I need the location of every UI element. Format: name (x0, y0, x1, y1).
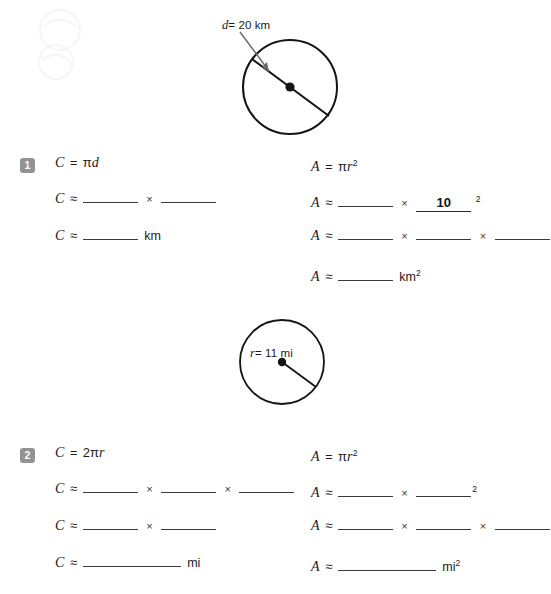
approx-sign: ≈ (68, 555, 78, 570)
formula-circumference: C = πd (55, 153, 305, 189)
times-sign: × (397, 230, 411, 242)
problem-2-circumference-column: C = 2πr C ≈ × × C ≈ × C ≈ mi (55, 443, 305, 590)
row-lhs: C (55, 481, 65, 496)
answer-blank[interactable] (83, 553, 181, 567)
formula-lhs: C (55, 445, 65, 460)
answer-blank[interactable] (338, 267, 393, 281)
problem-2-area-column: A = πr2 A ≈ × 2 A ≈ × × A ≈ mi2 (311, 443, 543, 590)
work-row: C ≈ mi (55, 553, 305, 590)
row-lhs: A (311, 195, 320, 210)
answer-blank[interactable] (495, 516, 550, 530)
approx-sign: ≈ (68, 191, 78, 206)
times-sign: × (142, 193, 156, 205)
answer-blank[interactable] (161, 516, 216, 530)
approx-sign: ≈ (323, 195, 333, 210)
times-sign: × (221, 483, 235, 495)
answer-blank[interactable] (495, 226, 550, 240)
answer-blank[interactable] (338, 226, 393, 240)
equals-sign: = (68, 446, 79, 460)
answer-blank[interactable] (416, 226, 471, 240)
coefficient: 2 (83, 445, 90, 460)
unit-label: km (142, 229, 161, 243)
exponent: 2 (353, 158, 358, 168)
times-sign: × (476, 230, 490, 242)
equals-sign: = (68, 156, 79, 170)
approx-sign: ≈ (68, 228, 78, 243)
times-sign: × (142, 520, 156, 532)
times-sign: × (397, 197, 411, 209)
answer-blank-filled[interactable]: 10 (416, 196, 471, 212)
row-lhs: A (311, 228, 320, 243)
row-lhs: C (55, 555, 65, 570)
approx-sign: ≈ (323, 559, 333, 574)
formula-lhs: A (311, 159, 320, 174)
row-lhs: C (55, 191, 65, 206)
approx-sign: ≈ (68, 518, 78, 533)
figure-circle-radius: r= 11 mi (222, 308, 352, 420)
work-row: A ≈ × × (311, 226, 543, 263)
problem-1-circumference-column: C = πd C ≈ × C ≈ km (55, 153, 305, 263)
exponent: 2 (416, 268, 421, 278)
problem-number-badge: 1 (20, 158, 35, 173)
unit-label: mi (440, 560, 455, 574)
work-row: A ≈ mi2 (311, 553, 543, 590)
approx-sign: ≈ (68, 481, 78, 496)
figure-label-diameter: d= 20 km (222, 18, 270, 33)
answer-blank[interactable] (161, 189, 216, 203)
figure-label-value: = 20 km (228, 19, 270, 31)
work-row: C ≈ × × (55, 479, 305, 516)
answer-blank[interactable] (338, 557, 436, 571)
work-row: A ≈ × 2 (311, 479, 543, 516)
answer-blank[interactable] (161, 479, 216, 493)
row-lhs: C (55, 518, 65, 533)
pi-symbol: π (338, 159, 347, 174)
answer-blank[interactable] (416, 483, 471, 497)
work-row: A ≈ km2 (311, 263, 543, 300)
times-sign: × (397, 520, 411, 532)
equals-sign: = (323, 160, 334, 174)
figure-label-value: = 11 mi (255, 347, 293, 359)
formula-rhs-variable: d (92, 155, 99, 170)
problem-1-area-column: A = πr2 A ≈ × 10 2 A ≈ × × A ≈ km2 (311, 153, 543, 300)
work-row: C ≈ × (55, 189, 305, 226)
problem-number-badge: 2 (20, 448, 35, 463)
formula-lhs: C (55, 155, 65, 170)
watermark (14, 4, 124, 84)
answer-blank[interactable] (83, 189, 138, 203)
figure-circle-diameter: d= 20 km (196, 8, 366, 148)
answer-blank[interactable] (83, 479, 138, 493)
times-sign: × (397, 487, 411, 499)
approx-sign: ≈ (323, 269, 333, 284)
answer-blank[interactable] (83, 516, 138, 530)
times-sign: × (142, 483, 156, 495)
answer-blank[interactable] (338, 483, 393, 497)
answer-blank[interactable] (416, 516, 471, 530)
work-row: C ≈ × (55, 516, 305, 553)
exponent: 2 (456, 558, 461, 568)
row-lhs: A (311, 518, 320, 533)
row-lhs: A (311, 559, 320, 574)
pi-symbol: π (83, 155, 92, 170)
row-lhs: A (311, 269, 320, 284)
formula-lhs: A (311, 449, 320, 464)
formula-area: A = πr2 (311, 443, 543, 479)
answer-blank[interactable] (83, 226, 138, 240)
exponent: 2 (353, 448, 358, 458)
answer-blank[interactable] (338, 516, 393, 530)
times-sign: × (476, 520, 490, 532)
pi-symbol: π (90, 445, 99, 460)
answer-blank[interactable] (338, 193, 393, 207)
answer-blank[interactable] (239, 479, 294, 493)
approx-sign: ≈ (323, 485, 333, 500)
work-row: A ≈ × 10 2 (311, 189, 543, 226)
exponent: 2 (472, 484, 477, 494)
equals-sign: = (323, 450, 334, 464)
figure-label-radius: r= 11 mi (250, 346, 293, 361)
unit-label: mi (185, 556, 200, 570)
approx-sign: ≈ (323, 518, 333, 533)
approx-sign: ≈ (323, 228, 333, 243)
work-row: A ≈ × × (311, 516, 543, 553)
pi-symbol: π (338, 449, 347, 464)
exponent: 2 (476, 194, 481, 204)
row-lhs: A (311, 485, 320, 500)
